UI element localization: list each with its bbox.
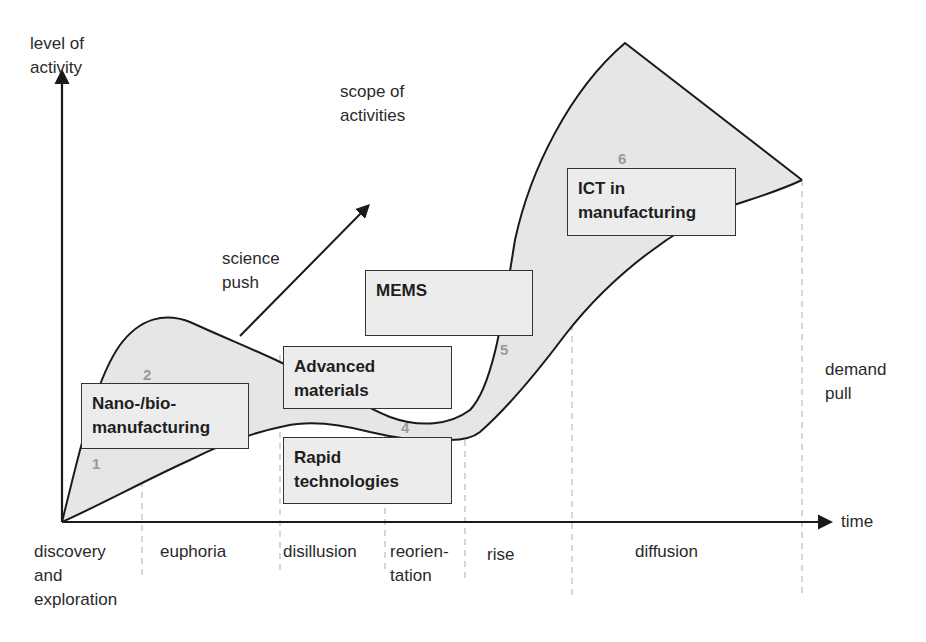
phase-marker-1: 1 xyxy=(92,455,100,472)
box-nano-bio-manufacturing: Nano-/bio- manufacturing xyxy=(81,383,249,449)
phase-label-reorientation: reorien- tation xyxy=(390,540,449,588)
phase-label-disillusion: disillusion xyxy=(283,540,357,564)
phase-label-discovery: discovery and exploration xyxy=(34,540,117,612)
phase-marker-6: 6 xyxy=(618,150,626,167)
box-rapid-technologies: Rapid technologies xyxy=(283,437,452,504)
phase-label-euphoria: euphoria xyxy=(160,540,226,564)
scope-axis-label: scope of activities xyxy=(340,80,405,128)
y-axis-label: level of activity xyxy=(30,32,84,80)
phase-marker-2: 2 xyxy=(143,366,151,383)
box-ict-in-manufacturing: ICT in manufacturing xyxy=(567,168,736,236)
box-mems: MEMS xyxy=(365,270,533,336)
phase-label-diffusion: diffusion xyxy=(635,540,698,564)
phase-marker-5: 5 xyxy=(500,341,508,358)
demand-pull-label: demand pull xyxy=(825,358,886,406)
phase-label-rise: rise xyxy=(487,543,514,567)
x-axis-label: time xyxy=(841,510,873,534)
phase-marker-4: 4 xyxy=(401,419,409,436)
science-push-label: science push xyxy=(222,247,280,295)
box-advanced-materials: Advanced materials xyxy=(283,346,452,409)
